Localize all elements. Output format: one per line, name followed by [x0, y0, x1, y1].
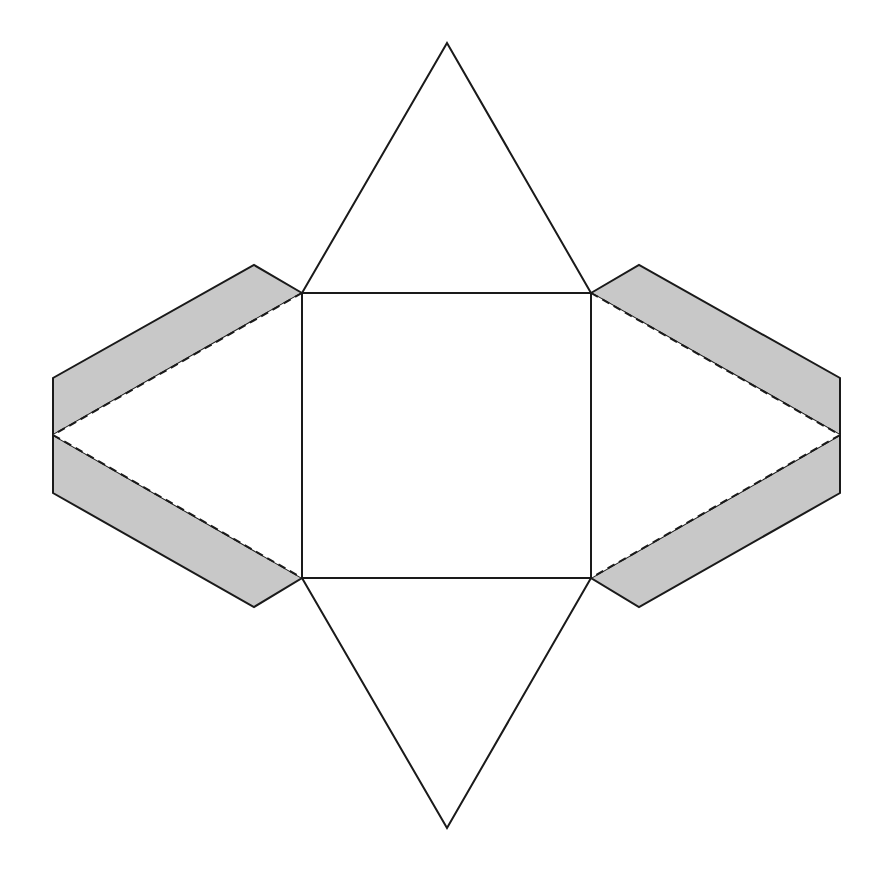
triangle-face-top: [302, 43, 591, 293]
faces: [53, 43, 840, 828]
pyramid-net-diagram: [0, 0, 883, 888]
base-square: [302, 293, 591, 578]
triangle-face-bottom: [302, 578, 591, 828]
